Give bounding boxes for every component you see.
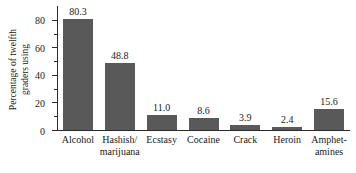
- bar-value-label: 80.3: [69, 6, 87, 17]
- y-tick-label: 20: [35, 97, 45, 108]
- x-category-label-line: Alcohol: [62, 134, 94, 146]
- x-category-label: Crack: [233, 134, 257, 146]
- bar: 2.4: [272, 127, 302, 130]
- y-tick-minor: [54, 116, 57, 117]
- y-tick-label: 40: [35, 70, 45, 81]
- bar: 80.3: [63, 19, 93, 130]
- y-axis-title-line-1: Percentage of twelfth: [9, 28, 21, 109]
- x-category-label-line: marijuana: [100, 146, 140, 158]
- x-axis-line: [57, 130, 350, 131]
- y-tick-minor: [54, 89, 57, 90]
- x-category-label: Ecstasy: [146, 134, 177, 146]
- y-tick-label: 0: [40, 125, 45, 136]
- x-category-label-line: Cocaine: [187, 134, 220, 146]
- x-category-label: Alcohol: [62, 134, 94, 146]
- y-axis-title: Percentage of twelfth graders using: [0, 0, 40, 138]
- y-tick-label: 60: [35, 42, 45, 53]
- x-category-label: Hashish/marijuana: [100, 134, 140, 157]
- bar: 15.6: [314, 109, 344, 130]
- y-tick-minor: [54, 34, 57, 35]
- x-category-label: Heroin: [273, 134, 301, 146]
- x-category-label-line: amines: [311, 146, 347, 158]
- x-category-label-line: Heroin: [273, 134, 301, 146]
- x-category-label-line: Ecstasy: [146, 134, 177, 146]
- y-tick-label: 80: [35, 15, 45, 26]
- y-tick-major: 0: [52, 130, 57, 131]
- y-axis-title-line-2: graders using: [20, 28, 32, 109]
- y-tick-minor: [54, 61, 57, 62]
- bar-value-label: 48.8: [111, 50, 129, 61]
- plot-area: 020406080 80.348.811.08.63.92.415.6 Alco…: [57, 6, 350, 131]
- x-category-label-line: Amphet-: [311, 134, 347, 146]
- y-tick-major: 60: [52, 47, 57, 48]
- bar-value-label: 8.6: [197, 105, 210, 116]
- y-tick-major: 80: [52, 20, 57, 21]
- y-tick-major: 20: [52, 102, 57, 103]
- x-category-label: Cocaine: [187, 134, 220, 146]
- bar: 11.0: [147, 115, 177, 130]
- bar: 3.9: [230, 125, 260, 130]
- x-category-label-line: Crack: [233, 134, 257, 146]
- bar-value-label: 15.6: [320, 96, 338, 107]
- bar: 48.8: [105, 63, 135, 130]
- x-category-label-line: Hashish/: [100, 134, 140, 146]
- bar-chart: Percentage of twelfth graders using 0204…: [0, 0, 356, 173]
- y-axis-line: [57, 6, 58, 131]
- bar-value-label: 11.0: [153, 102, 170, 113]
- x-category-label: Amphet-amines: [311, 134, 347, 157]
- bar: 8.6: [189, 118, 219, 130]
- bar-value-label: 2.4: [281, 114, 294, 125]
- bar-value-label: 3.9: [239, 112, 252, 123]
- y-tick-major: 40: [52, 75, 57, 76]
